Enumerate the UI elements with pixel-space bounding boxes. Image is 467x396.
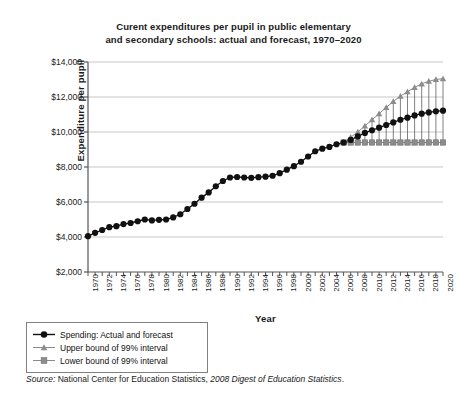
data-point-triangle xyxy=(397,93,403,99)
x-tick-label: 1984 xyxy=(191,274,199,292)
x-tick-label: 1970 xyxy=(92,274,100,292)
x-tick-label: 2008 xyxy=(361,274,369,292)
data-point-square xyxy=(41,358,47,364)
data-point-circle xyxy=(113,223,119,229)
legend-item: Spending: Actual and forecast xyxy=(32,328,201,341)
y-axis-tick-labels: $2,000$4,000$6,000$8,000$10,000$12,000$1… xyxy=(24,62,82,272)
data-point-circle xyxy=(440,108,446,114)
data-point-circle xyxy=(248,175,254,181)
x-tick-label: 1994 xyxy=(262,274,270,292)
data-point-circle xyxy=(412,112,418,118)
x-tick-label: 2016 xyxy=(418,274,426,292)
data-point-circle xyxy=(376,125,382,131)
data-point-circle xyxy=(397,117,403,123)
data-point-circle xyxy=(383,122,389,128)
legend-label: Upper bound of 99% interval xyxy=(56,343,168,353)
data-point-circle xyxy=(262,174,268,180)
chart-title-line-2: and secondary schools: actual and foreca… xyxy=(0,33,467,46)
data-point-triangle xyxy=(440,75,446,81)
x-tick-label: 2018 xyxy=(432,274,440,292)
x-tick-label: 2002 xyxy=(319,274,327,292)
x-tick-label: 1988 xyxy=(219,274,227,292)
data-point-circle xyxy=(319,146,325,152)
legend-marker-circle-icon xyxy=(32,328,56,341)
data-point-circle xyxy=(284,167,290,173)
x-tick-label: 1990 xyxy=(234,274,242,292)
y-tick-label: $6,000 xyxy=(26,198,82,207)
data-point-circle xyxy=(390,119,396,125)
data-point-circle xyxy=(191,201,197,207)
data-point-square xyxy=(391,140,396,145)
gridlines xyxy=(88,62,443,237)
data-point-triangle xyxy=(404,89,410,95)
y-tick-label: $4,000 xyxy=(26,233,82,242)
plot-area xyxy=(88,62,443,272)
data-point-square xyxy=(419,140,424,145)
data-point-circle xyxy=(333,141,339,147)
data-point-circle xyxy=(142,216,148,222)
chart-title-line-1: Curent expenditures per pupil in public … xyxy=(0,20,467,33)
data-point-circle xyxy=(170,214,176,220)
data-point-square xyxy=(405,140,410,145)
data-point-circle xyxy=(348,137,354,143)
data-point-circle xyxy=(369,127,375,133)
x-tick-label: 1998 xyxy=(290,274,298,292)
data-point-circle xyxy=(404,115,410,121)
x-tick-label: 2006 xyxy=(347,274,355,292)
series-lines xyxy=(88,79,443,237)
x-tick-label: 2010 xyxy=(376,274,384,292)
x-tick-label: 2000 xyxy=(305,274,313,292)
x-tick-label: 1996 xyxy=(276,274,284,292)
y-tick-label: $14,000 xyxy=(26,58,82,67)
x-tick-label: 2014 xyxy=(404,274,412,292)
data-point-square xyxy=(362,140,367,145)
x-tick-label: 1980 xyxy=(163,274,171,292)
data-point-circle xyxy=(341,139,347,145)
data-point-square xyxy=(433,140,438,145)
data-point-circle xyxy=(419,111,425,117)
data-point-circle xyxy=(213,183,219,189)
x-tick-label: 2012 xyxy=(390,274,398,292)
data-point-circle xyxy=(128,220,134,226)
chart-title: Curent expenditures per pupil in public … xyxy=(0,20,467,46)
data-point-triangle xyxy=(411,84,417,90)
chart-figure: Curent expenditures per pupil in public … xyxy=(0,0,467,396)
data-point-triangle xyxy=(390,98,396,104)
chart-legend: Spending: Actual and forecastUpper bound… xyxy=(26,322,208,373)
y-tick-label: $2,000 xyxy=(26,268,82,277)
data-point-square xyxy=(369,140,374,145)
data-point-circle xyxy=(234,174,240,180)
data-point-circle xyxy=(184,206,190,212)
data-point-circle xyxy=(227,174,233,180)
data-point-circle xyxy=(156,217,162,223)
data-point-circle xyxy=(220,178,226,184)
data-point-circle xyxy=(92,230,98,236)
x-tick-label: 1976 xyxy=(134,274,142,292)
data-point-square xyxy=(384,140,389,145)
data-point-circle xyxy=(305,153,311,159)
data-point-circle xyxy=(291,163,297,169)
data-point-square xyxy=(355,140,360,145)
source-label: Source: xyxy=(26,374,55,384)
data-point-square xyxy=(412,140,417,145)
source-publication: 2008 Digest of Education Statistics xyxy=(210,374,341,384)
y-tick-label: $8,000 xyxy=(26,163,82,172)
data-point-circle xyxy=(85,233,91,239)
source-note: Source: National Center for Education St… xyxy=(26,374,344,384)
series-markers xyxy=(85,75,446,239)
x-tick-label: 2020 xyxy=(447,274,455,292)
x-tick-label: 1992 xyxy=(248,274,256,292)
data-point-circle xyxy=(99,227,105,233)
data-point-circle xyxy=(298,159,304,165)
data-point-circle xyxy=(177,211,183,217)
data-point-circle xyxy=(312,148,318,154)
data-point-square xyxy=(398,140,403,145)
source-end: . xyxy=(342,374,344,384)
data-point-circle xyxy=(163,216,169,222)
data-point-circle xyxy=(149,217,155,223)
y-tick-label: $10,000 xyxy=(26,128,82,137)
legend-marker-square-icon xyxy=(32,354,56,367)
y-tick-label: $12,000 xyxy=(26,93,82,102)
x-tick-label: 1974 xyxy=(120,274,128,292)
data-point-circle xyxy=(426,109,432,115)
